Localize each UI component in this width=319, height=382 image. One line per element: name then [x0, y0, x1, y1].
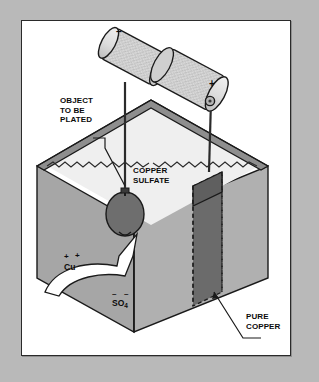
sulfate-ion-label: SO4: [112, 298, 128, 309]
sulfate-ion-subscript: 4: [124, 302, 128, 309]
electroplating-illustration: [21, 20, 291, 356]
sulfate-ion-charge-2: –: [124, 289, 128, 298]
copper-ion-label: Cu: [64, 262, 75, 272]
label-copper-sulfate: COPPER SULFATE: [133, 166, 170, 185]
battery-positive-terminal-label: +: [209, 78, 215, 89]
battery-negative-terminal-label: –: [116, 26, 122, 37]
copper-ion-charge-2: +: [75, 251, 80, 260]
copper-ion-charge-1: +: [64, 252, 69, 261]
label-pure-copper: PURE COPPER: [246, 312, 280, 331]
figure-root: OBJECT TO BE PLATED COPPER SULFATE PURE …: [0, 0, 319, 382]
battery: [94, 25, 232, 115]
pure-copper-electrode: [193, 172, 222, 306]
sulfate-ion-formula: SO: [112, 298, 124, 308]
sulfate-ion-charge-1: –: [112, 289, 116, 298]
label-object-to-be-plated: OBJECT TO BE PLATED: [60, 96, 93, 125]
